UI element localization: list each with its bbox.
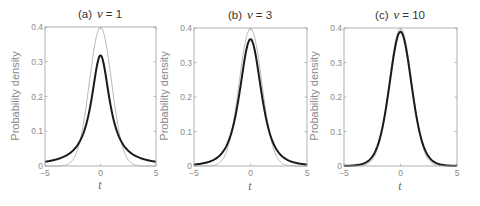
normal-curve bbox=[45, 27, 156, 166]
t-distribution-curve bbox=[344, 32, 457, 166]
panel-c-xlabel: t bbox=[398, 179, 402, 193]
panel-c-axes-frame bbox=[344, 28, 457, 166]
panel-a-axes-frame bbox=[45, 27, 156, 166]
panel-c-xticks: −505 bbox=[339, 28, 459, 178]
xtick-label: 5 bbox=[154, 168, 159, 178]
xtick-label: 0 bbox=[398, 168, 403, 178]
xtick-label: −5 bbox=[339, 168, 349, 178]
xtick-label: 5 bbox=[455, 168, 460, 178]
panel-b-xlabel: t bbox=[248, 179, 252, 193]
ytick-label: 0.2 bbox=[330, 92, 342, 102]
t-distribution-curve bbox=[45, 55, 156, 161]
panel-b-curves bbox=[194, 28, 307, 166]
panel-c-yticks: 00.10.20.30.4 bbox=[330, 23, 457, 171]
panel-b: (b)ν= 3 Probability density t 00.10.20.3… bbox=[158, 7, 310, 193]
panel-b-xticks: −505 bbox=[189, 28, 309, 178]
normal-curve bbox=[194, 28, 307, 166]
panel-b-yticks: 00.10.20.30.4 bbox=[180, 23, 307, 171]
ytick-label: 0.3 bbox=[31, 57, 43, 67]
panel-a-curves bbox=[45, 27, 156, 166]
normal-curve bbox=[344, 28, 457, 166]
xtick-label: 0 bbox=[98, 168, 103, 178]
ytick-label: 0.3 bbox=[180, 58, 192, 68]
ytick-label: 0.4 bbox=[180, 23, 192, 33]
ytick-label: 0.1 bbox=[31, 126, 43, 136]
figure: (a)ν= 1 Probability density t 00.10.20.3… bbox=[0, 0, 480, 206]
panel-c-title: (c)ν= 10 bbox=[375, 7, 425, 22]
ytick-label: 0.3 bbox=[330, 58, 342, 68]
t-distribution-curve bbox=[194, 39, 307, 164]
ytick-label: 0.4 bbox=[31, 22, 43, 32]
panel-a: (a)ν= 1 Probability density t 00.10.20.3… bbox=[9, 6, 159, 192]
panel-b-ylabel: Probability density bbox=[158, 51, 170, 141]
xtick-label: −5 bbox=[189, 168, 199, 178]
panel-a-yticks: 00.10.20.30.4 bbox=[31, 22, 156, 171]
panel-a-title: (a)ν= 1 bbox=[78, 6, 122, 21]
panel-c-curves bbox=[344, 28, 457, 166]
ytick-label: 0.1 bbox=[180, 127, 192, 137]
panel-c-ylabel: Probability density bbox=[308, 51, 320, 141]
panel-a-ylabel: Probability density bbox=[9, 51, 21, 141]
panel-a-xlabel: t bbox=[98, 178, 102, 192]
panel-c: (c)ν= 10 Probability density t 00.10.20.… bbox=[308, 7, 460, 193]
ytick-label: 0.2 bbox=[180, 92, 192, 102]
xtick-label: 0 bbox=[248, 168, 253, 178]
ytick-label: 0.4 bbox=[330, 23, 342, 33]
panel-a-xticks: −505 bbox=[40, 27, 158, 178]
ytick-label: 0.1 bbox=[330, 127, 342, 137]
xtick-label: 5 bbox=[305, 168, 310, 178]
ytick-label: 0.2 bbox=[31, 92, 43, 102]
panel-b-axes-frame bbox=[194, 28, 307, 166]
panel-b-title: (b)ν= 3 bbox=[228, 7, 272, 22]
xtick-label: −5 bbox=[40, 168, 50, 178]
